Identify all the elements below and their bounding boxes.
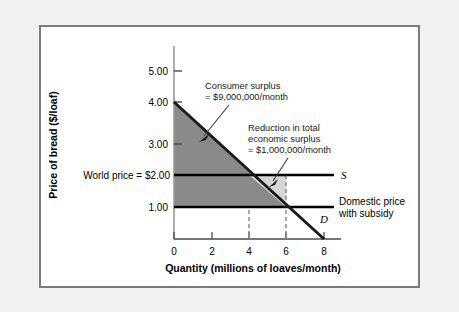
consumer-surplus-leader-line xyxy=(204,105,229,136)
supply-curve-label: S xyxy=(341,169,347,181)
consumer-surplus-annotation-line2: = $9,000,000/month xyxy=(205,92,288,102)
deadweight-loss-annotation-line1: Reduction in total xyxy=(248,123,320,133)
domestic-price-label-line1: Domestic price xyxy=(339,196,406,207)
x-tick-label-2: 2 xyxy=(209,246,215,257)
y-tick-label-5: 5.00 xyxy=(149,66,169,77)
deadweight-loss-annotation-line3: = $1,000,000/month xyxy=(248,145,331,155)
world-price-label: World price = $2.00 xyxy=(83,170,170,181)
consumer-surplus-annotation-line1: Consumer surplus xyxy=(205,81,281,91)
economics-chart: 5.00 4.00 3.00 1.00 0 2 4 6 8 Quantity (… xyxy=(41,27,418,286)
x-tick-label-4: 4 xyxy=(246,246,252,257)
domestic-price-label-line2: with subsidy xyxy=(338,208,393,219)
x-tick-label-0: 0 xyxy=(171,246,177,257)
y-axis-title: Price of bread ($/loaf) xyxy=(47,91,59,198)
y-tick-label-4: 4.00 xyxy=(149,97,169,108)
figure-frame: 5.00 4.00 3.00 1.00 0 2 4 6 8 Quantity (… xyxy=(39,25,420,288)
x-axis-title: Quantity (millions of loaves/month) xyxy=(165,262,341,274)
y-tick-label-3: 3.00 xyxy=(149,139,169,150)
demand-curve-label: D xyxy=(319,213,328,225)
deadweight-loss-annotation-line2: economic surplus xyxy=(248,134,321,144)
x-tick-label-6: 6 xyxy=(283,246,289,257)
y-tick-label-1: 1.00 xyxy=(149,202,169,213)
x-tick-label-8: 8 xyxy=(321,246,327,257)
